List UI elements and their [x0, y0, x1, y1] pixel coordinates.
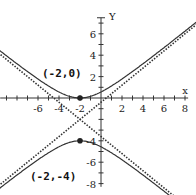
- hyperbola-plot: -6-4-22468-8-6-4246xY(-2,0)(-2,-4): [0, 0, 196, 195]
- y-tick-label: 6: [90, 29, 96, 40]
- lower-branch: [0, 141, 196, 195]
- y-tick-label: 2: [90, 72, 96, 83]
- x-tick-label: -6: [33, 103, 43, 114]
- x-tick-label: 2: [119, 103, 125, 114]
- x-tick-label: 6: [161, 103, 167, 114]
- x-tick-label: -2: [75, 103, 85, 114]
- y-tick-label: -4: [86, 136, 96, 147]
- vertex-label: (-2,0): [42, 67, 82, 80]
- x-tick-label: -4: [54, 103, 64, 114]
- y-axis-label: Y: [108, 11, 116, 22]
- x-axis-label: x: [182, 85, 188, 96]
- vertex-point: [77, 138, 83, 144]
- vertex-label: (-2,-4): [30, 170, 76, 183]
- y-tick-label: -8: [86, 179, 96, 190]
- y-tick-label: 4: [90, 50, 96, 61]
- y-tick-label: -6: [86, 157, 96, 168]
- x-tick-label: 8: [182, 103, 188, 114]
- x-tick-label: 4: [140, 103, 146, 114]
- vertex-point: [77, 95, 83, 101]
